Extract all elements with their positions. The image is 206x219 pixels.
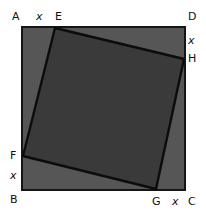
length-label-FB: x xyxy=(10,170,17,181)
vertex-label-A: A xyxy=(12,11,20,22)
vertex-label-C: C xyxy=(188,196,196,207)
figure-canvas xyxy=(0,0,206,219)
vertex-label-B: B xyxy=(10,194,18,205)
vertex-label-D: D xyxy=(188,11,196,22)
vertex-label-G: G xyxy=(152,196,161,207)
geometry-figure: A x E D x H F x B G x C xyxy=(0,0,206,219)
vertex-label-E: E xyxy=(55,11,62,22)
length-label-GC: x xyxy=(172,196,179,207)
length-label-AE: x xyxy=(36,11,43,22)
length-label-DH: x xyxy=(188,35,195,46)
vertex-label-H: H xyxy=(188,53,196,64)
vertex-label-F: F xyxy=(10,150,16,161)
